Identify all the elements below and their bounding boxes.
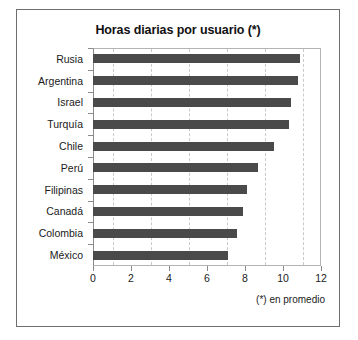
x-axis-tick xyxy=(93,266,94,271)
x-axis-tick xyxy=(321,266,322,271)
x-axis-tick xyxy=(245,266,246,271)
chart-figure: Horas diarias por usuario (*) RusiaArgen… xyxy=(16,9,340,327)
bar xyxy=(93,163,258,172)
bar-row xyxy=(93,70,321,92)
y-axis-label: Argentina xyxy=(17,70,87,92)
bar xyxy=(93,98,291,107)
x-axis-tick xyxy=(169,266,170,271)
bar-row xyxy=(93,48,321,70)
y-axis-label: Chile xyxy=(17,135,87,157)
x-axis-tick-label: 6 xyxy=(204,272,210,284)
bar-row xyxy=(93,179,321,201)
bar xyxy=(93,185,247,194)
x-axis-tick xyxy=(131,266,132,271)
y-axis-label: Filipinas xyxy=(17,179,87,201)
y-axis-labels: RusiaArgentinaIsraelTurquíaChilePerúFili… xyxy=(17,48,87,266)
x-axis-tick-label: 8 xyxy=(242,272,248,284)
y-axis-label: Colombia xyxy=(17,222,87,244)
bar xyxy=(93,142,274,151)
bar xyxy=(93,54,300,63)
bar xyxy=(93,229,237,238)
x-axis-tick-label: 0 xyxy=(90,272,96,284)
x-axis-tick xyxy=(207,266,208,271)
bar-row xyxy=(93,222,321,244)
bar-row xyxy=(93,92,321,114)
y-axis-label: Israel xyxy=(17,92,87,114)
y-axis-label: Canadá xyxy=(17,201,87,223)
chart-title: Horas diarias por usuario (*) xyxy=(17,23,339,37)
x-axis-tick-label: 4 xyxy=(166,272,172,284)
x-axis-tick-label: 10 xyxy=(277,272,289,284)
chart-footnote: (*) en promedio xyxy=(256,294,325,305)
y-axis-label: México xyxy=(17,244,87,266)
x-axis-tick-label: 2 xyxy=(128,272,134,284)
y-axis-label: Rusia xyxy=(17,48,87,70)
bar-row xyxy=(93,135,321,157)
x-axis-tick xyxy=(283,266,284,271)
x-axis-tick-label: 12 xyxy=(315,272,327,284)
bar xyxy=(93,207,243,216)
bar-series xyxy=(93,48,321,266)
y-axis-label: Turquía xyxy=(17,113,87,135)
bar xyxy=(93,120,289,129)
bar-row xyxy=(93,113,321,135)
x-axis-labels: 024681012 xyxy=(93,272,321,288)
y-axis-label: Perú xyxy=(17,157,87,179)
bar-row xyxy=(93,244,321,266)
bar-row xyxy=(93,201,321,223)
bar xyxy=(93,251,228,260)
bar xyxy=(93,76,298,85)
bar-row xyxy=(93,157,321,179)
